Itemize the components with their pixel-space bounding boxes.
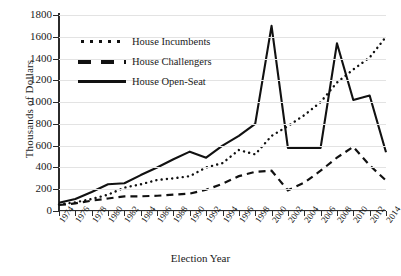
legend-swatch-dotted-icon [76, 36, 128, 46]
gridline [59, 167, 386, 168]
y-tick-mark [53, 59, 59, 60]
y-tick-mark [53, 37, 59, 38]
y-tick-mark [53, 146, 59, 147]
x-tick-mark [141, 211, 142, 216]
y-tick-mark [53, 80, 59, 81]
gridline [59, 102, 386, 103]
x-tick-mark [239, 211, 240, 216]
line-house-challengers [59, 147, 386, 205]
legend-item-house-incumbents: House Incumbents [76, 33, 212, 49]
legend-swatch-dashed-icon [76, 56, 128, 66]
x-tick-mark [370, 211, 371, 216]
y-tick-label: 200 [12, 183, 52, 194]
y-tick-label: 600 [12, 140, 52, 151]
y-tick-mark [53, 15, 59, 16]
x-tick-mark [255, 211, 256, 216]
y-tick-mark [53, 189, 59, 190]
x-tick-mark [59, 211, 60, 216]
x-tick-mark [321, 211, 322, 216]
x-tick-mark [288, 211, 289, 216]
legend-label: House Open-Seat [132, 76, 206, 87]
y-axis-tick-labels: 020040060080010001200140016001800 [8, 0, 52, 276]
y-tick-label: 1400 [12, 53, 52, 64]
legend-label: House Challengers [132, 56, 212, 67]
y-tick-mark [53, 167, 59, 168]
x-tick-mark [75, 211, 76, 216]
y-tick-label: 1000 [12, 96, 52, 107]
chart-figure: Thousands of Dollars 0200400600800100012… [0, 0, 401, 276]
legend-label: House Incumbents [132, 36, 210, 47]
x-tick-mark [157, 211, 158, 216]
gridline [59, 146, 386, 147]
x-tick-mark [108, 211, 109, 216]
x-tick-mark [206, 211, 207, 216]
x-tick-mark [173, 211, 174, 216]
legend-item-house-open-seat: House Open-Seat [76, 73, 212, 89]
gridline [59, 15, 386, 16]
gridline [59, 124, 386, 125]
x-tick-mark [124, 211, 125, 216]
x-tick-mark [304, 211, 305, 216]
y-tick-label: 0 [12, 205, 52, 216]
x-axis-title: Election Year [0, 252, 401, 264]
x-tick-mark [353, 211, 354, 216]
x-tick-mark [190, 211, 191, 216]
y-tick-label: 1800 [12, 9, 52, 20]
x-tick-mark [92, 211, 93, 216]
y-tick-label: 400 [12, 161, 52, 172]
x-tick-mark [223, 211, 224, 216]
y-tick-mark [53, 124, 59, 125]
legend-swatch-solid-icon [76, 76, 128, 86]
x-tick-mark [386, 211, 387, 216]
legend-item-house-challengers: House Challengers [76, 53, 212, 69]
gridline [59, 189, 386, 190]
y-tick-mark [53, 102, 59, 103]
x-tick-mark [337, 211, 338, 216]
y-tick-label: 1600 [12, 31, 52, 42]
y-tick-label: 800 [12, 118, 52, 129]
chart-legend: House Incumbents House Challengers House… [76, 33, 212, 93]
x-tick-mark [272, 211, 273, 216]
y-tick-label: 1200 [12, 74, 52, 85]
